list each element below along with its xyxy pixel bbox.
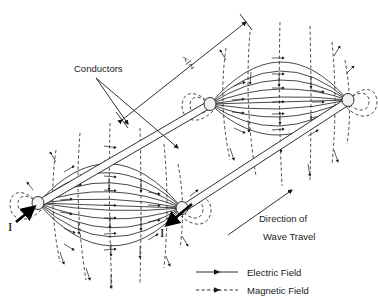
- conductor-node-upper-left[interactable]: [204, 98, 216, 111]
- conductors-group[interactable]: [32, 94, 354, 215]
- legend-magnetic-label: Magnetic Field: [247, 285, 309, 296]
- legend-electric-label: Electric Field: [247, 267, 301, 278]
- current-label-left: I: [8, 219, 12, 234]
- wave-travel-group: Direction of Wave Travel: [228, 190, 315, 242]
- lower-magnetic-field-arcs: [53, 123, 183, 290]
- diagram-canvas: I I λ 2 Conductors Direction of Wave Tra…: [0, 0, 378, 306]
- wave-travel-label-line2: Wave Travel: [263, 231, 315, 242]
- current-label-right: I: [160, 225, 164, 240]
- wavelength-tick-end: [240, 14, 252, 30]
- wavelength-dimension-line: [122, 22, 246, 120]
- conductor-rail-upper[interactable]: [38, 100, 214, 206]
- legend: Electric Field Magnetic Field: [196, 267, 309, 296]
- conductors-leader-2: [96, 78, 178, 148]
- conductor-rail-lower[interactable]: [182, 97, 352, 211]
- lower-electric-field-lines-upper: [38, 164, 182, 208]
- conductor-node-upper-right[interactable]: [342, 94, 354, 107]
- wave-travel-label-line1: Direction of: [259, 213, 307, 224]
- legend-item-magnetic-field: Magnetic Field: [196, 285, 309, 296]
- current-arrow-left: [16, 208, 33, 222]
- em-wave-diagram: I I λ 2 Conductors Direction of Wave Tra…: [0, 0, 378, 306]
- legend-item-electric-field: Electric Field: [196, 267, 301, 278]
- conductor-node-lower-left[interactable]: [32, 197, 44, 210]
- legend-magnetic-arrow-icon: [214, 287, 221, 293]
- wavelength-tick-start: [116, 112, 128, 128]
- conductors-label: Conductors: [74, 63, 123, 74]
- conductors-leader-lines: [96, 78, 178, 148]
- legend-electric-arrow-icon: [214, 269, 221, 275]
